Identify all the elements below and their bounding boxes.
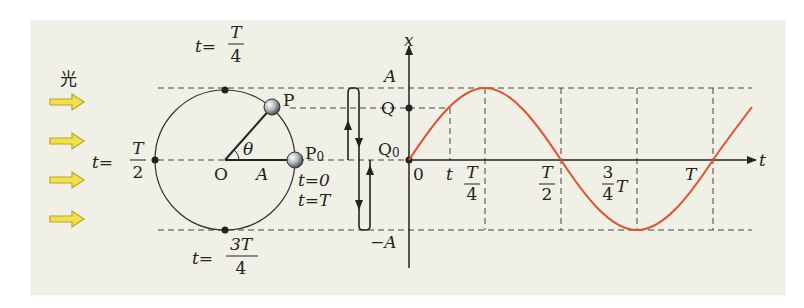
- ball-p: [264, 99, 280, 115]
- theta-label: θ: [243, 139, 253, 159]
- svg-text:t=: t=: [195, 36, 216, 56]
- svg-text:3T: 3T: [230, 234, 254, 254]
- top-point: [222, 87, 229, 94]
- p-label: P: [283, 90, 294, 110]
- svg-text:T: T: [541, 162, 554, 182]
- ball-p0: [287, 152, 303, 168]
- oscillation-diagram: 光 θ O A P P0 t=0 t=T t= T 4 t= T 2: [0, 0, 804, 308]
- light-arrow-icon: [50, 211, 84, 227]
- origin-zero-label: 0: [413, 164, 424, 184]
- q0-label: Q0: [378, 139, 400, 160]
- t-tick-label: t: [446, 164, 453, 184]
- down-arrow-icon: [355, 200, 363, 210]
- t-half-label: t= T 2: [92, 138, 146, 182]
- svg-text:4: 4: [467, 184, 478, 204]
- x-axis-label: x: [404, 30, 414, 50]
- tick-t-quarter: T 4: [464, 162, 480, 204]
- svg-text:4: 4: [236, 258, 247, 278]
- tT-label: t=T: [298, 190, 332, 210]
- q-point: [406, 105, 413, 112]
- svg-text:T: T: [230, 22, 243, 42]
- svg-text:3: 3: [603, 162, 614, 182]
- down-arrow-icon: [355, 138, 363, 148]
- t-axis-label: t: [759, 150, 766, 170]
- neg-a-label: −A: [370, 232, 397, 252]
- t-quarter-label: t= T 4: [195, 22, 244, 66]
- q-label: Q: [381, 98, 395, 118]
- p0-label: P0: [305, 143, 324, 164]
- svg-text:4: 4: [603, 184, 614, 204]
- svg-text:T: T: [132, 138, 145, 158]
- svg-text:T: T: [616, 176, 629, 196]
- up-arrow-icon: [344, 120, 352, 130]
- svg-text:2: 2: [542, 184, 553, 204]
- a-label: A: [382, 66, 396, 86]
- origin-o-label: O: [214, 164, 228, 184]
- left-point: [152, 157, 159, 164]
- angle-arc: [234, 150, 239, 160]
- light-arrow-icon: [50, 133, 84, 149]
- up-arrow-icon: [366, 165, 374, 175]
- radius-a-label: A: [254, 164, 268, 184]
- light-label: 光: [60, 69, 77, 89]
- light-arrow-icon: [50, 94, 84, 110]
- tick-t-full: T: [685, 164, 698, 184]
- light-arrows: [50, 94, 84, 227]
- t-three-quarter-label: t= 3T 4: [192, 234, 258, 278]
- tick-t-three-quarter: 3 4 T: [602, 162, 629, 204]
- svg-text:T: T: [466, 162, 479, 182]
- light-arrow-icon: [50, 172, 84, 188]
- bottom-point: [222, 227, 229, 234]
- svg-text:t=: t=: [92, 152, 113, 172]
- svg-text:t=: t=: [192, 248, 213, 268]
- sine-curve: [409, 88, 752, 230]
- t0-label: t=0: [298, 170, 330, 190]
- svg-text:4: 4: [231, 46, 242, 66]
- svg-text:2: 2: [133, 162, 144, 182]
- tick-t-half: T 2: [539, 162, 555, 204]
